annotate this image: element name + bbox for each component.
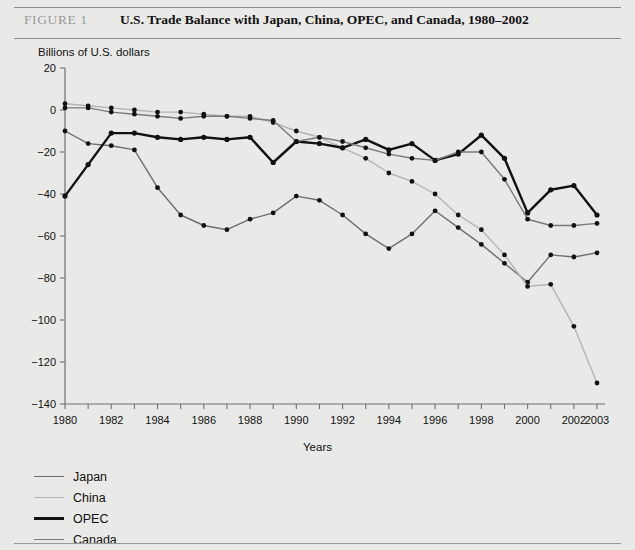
legend-line-swatch (34, 539, 64, 540)
line-chart: 200−20−40−60−80−100−120−1401980198219841… (0, 0, 635, 470)
legend-item-canada[interactable]: Canada (34, 529, 117, 550)
chart-legend: JapanChinaOPECCanada (34, 466, 117, 550)
x-tick-label: 1992 (330, 414, 354, 426)
x-tick-label: 1982 (99, 414, 123, 426)
legend-item-china[interactable]: China (34, 487, 117, 508)
legend-line-swatch (34, 517, 64, 520)
y-tick-label: −20 (37, 146, 56, 158)
legend-item-label: Canada (73, 533, 117, 547)
bottom-divider (14, 543, 621, 544)
y-tick-label: −140 (31, 398, 56, 410)
legend-item-japan[interactable]: Japan (34, 466, 117, 487)
x-tick-label: 1990 (284, 414, 308, 426)
y-tick-label: −60 (37, 230, 56, 242)
x-tick-label: 2000 (515, 414, 539, 426)
legend-line-swatch (34, 476, 64, 477)
x-tick-label: 1994 (377, 414, 401, 426)
y-tick-label: −80 (37, 272, 56, 284)
series-china (63, 101, 600, 385)
x-tick-label: 1980 (53, 414, 77, 426)
x-tick-label: 1986 (192, 414, 216, 426)
y-tick-label: 20 (44, 62, 56, 74)
x-tick-label: 2003 (585, 414, 609, 426)
legend-item-opec[interactable]: OPEC (34, 508, 117, 529)
x-tick-label: 1998 (469, 414, 493, 426)
x-tick-label: 1996 (423, 414, 447, 426)
y-tick-label: 0 (50, 104, 56, 116)
series-canada (63, 106, 600, 228)
y-tick-label: −40 (37, 188, 56, 200)
figure-page: FIGURE 1 U.S. Trade Balance with Japan, … (0, 0, 635, 550)
x-tick-label: 2002 (562, 414, 586, 426)
legend-line-swatch (34, 497, 64, 498)
x-tick-label: 1988 (238, 414, 262, 426)
series-japan (63, 129, 600, 285)
legend-item-label: OPEC (73, 512, 108, 526)
x-axis-title: Years (0, 441, 635, 453)
y-tick-label: −120 (31, 356, 56, 368)
x-tick-label: 1984 (145, 414, 169, 426)
chart-plot-area: 200−20−40−60−80−100−120−1401980198219841… (0, 0, 635, 470)
legend-item-label: China (73, 491, 106, 505)
legend-item-label: Japan (73, 470, 107, 484)
y-tick-label: −100 (31, 314, 56, 326)
